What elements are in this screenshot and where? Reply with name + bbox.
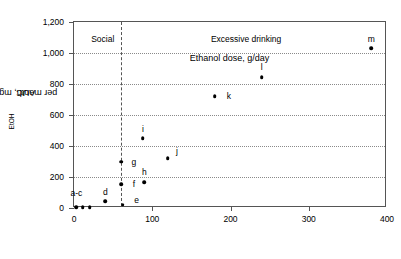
y-tick-400	[69, 146, 74, 147]
data-point-f	[119, 182, 123, 186]
excessive-region-label: Excessive drinking	[211, 34, 281, 44]
data-point-i	[141, 136, 145, 140]
y-tick-label-1000: 1,000	[43, 48, 64, 58]
data-point-2	[88, 205, 92, 209]
x-tick-200	[231, 206, 232, 211]
y-tick-label-400: 400	[50, 141, 64, 151]
data-point-label-l: l	[261, 62, 263, 72]
y-axis-label-subscript: EtOH	[9, 114, 16, 130]
data-point-label-g: g	[132, 157, 137, 167]
data-point-l	[260, 75, 264, 79]
data-point-label-k: k	[227, 91, 231, 101]
y-tick-0	[69, 208, 74, 209]
data-point-label-i: i	[142, 124, 144, 134]
data-point-e	[121, 203, 125, 207]
y-tick-label-800: 800	[50, 79, 64, 89]
x-tick-label-0: 0	[72, 214, 77, 224]
social-region-label: Social	[91, 34, 114, 44]
data-point-label-d: d	[103, 187, 108, 197]
y-tick-label-1200: 1,200	[43, 17, 64, 27]
plot-area: SocialExcessive drinking a-cdefghijklm 0…	[73, 21, 386, 207]
y-tick-800	[69, 84, 74, 85]
data-point-label-m: m	[368, 34, 375, 44]
data-point-a-c	[75, 205, 79, 209]
data-point-label-h: h	[142, 167, 147, 177]
y-tick-label-200: 200	[50, 172, 64, 182]
data-point-m	[370, 47, 374, 51]
data-point-label-e: e	[134, 195, 139, 205]
scatter-chart-figure: AUCEtOH per month, mg/g/h SocialExcessiv…	[0, 0, 401, 259]
drinking-threshold-line	[121, 22, 122, 206]
data-point-g	[119, 160, 123, 164]
x-tick-label-100: 100	[145, 214, 159, 224]
data-point-label-f: f	[133, 179, 135, 189]
y-tick-label-0: 0	[59, 203, 64, 213]
data-point-1	[81, 205, 85, 209]
y-axis-label-rest: per month, mg/g/h	[0, 88, 57, 98]
y-axis-label: AUCEtOH per month, mg/g/h	[2, 0, 18, 186]
data-point-label-j: j	[176, 146, 178, 156]
y-tick-1200	[69, 22, 74, 23]
data-point-d	[104, 200, 108, 204]
y-tick-600	[69, 115, 74, 116]
x-tick-300	[309, 206, 310, 211]
y-tick-label-600: 600	[50, 110, 64, 120]
x-tick-label-200: 200	[223, 214, 237, 224]
data-point-j	[166, 157, 170, 161]
data-point-label-a-c: a-c	[70, 188, 82, 198]
x-axis-label: Ethanol dose, g/day	[74, 53, 385, 63]
data-point-k	[213, 95, 217, 99]
data-point-h	[143, 180, 147, 184]
y-tick-200	[69, 177, 74, 178]
x-tick-label-400: 400	[380, 214, 394, 224]
x-tick-label-300: 300	[302, 214, 316, 224]
x-tick-100	[152, 206, 153, 211]
